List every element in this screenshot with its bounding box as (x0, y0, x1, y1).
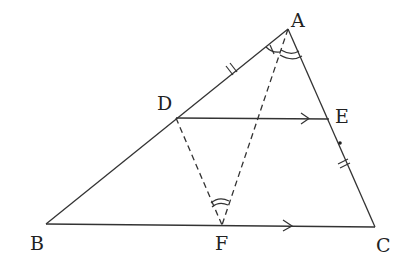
equal-tick-AD-1 (226, 66, 233, 75)
label-D: D (157, 92, 172, 114)
segment-BC (46, 224, 375, 227)
angle-arc-A-right-2 (280, 55, 302, 59)
geometry-diagram: A B C D E F (0, 0, 420, 279)
segment-AC (288, 29, 375, 227)
equal-tick-AD-2 (230, 63, 237, 72)
segment-AF (222, 29, 288, 225)
angle-arc-F-2 (212, 203, 228, 207)
dot-marker (338, 141, 342, 145)
label-B: B (30, 232, 44, 254)
angle-arc-F-1 (211, 199, 229, 203)
label-C: C (376, 234, 391, 256)
angle-tick-A (270, 45, 274, 54)
label-A: A (290, 9, 305, 31)
angle-arc-A-right-1 (281, 50, 299, 53)
label-E: E (335, 105, 349, 127)
parallel-arrow-icon-BC (283, 220, 292, 231)
segment-AB (46, 29, 288, 224)
segment-DE (176, 118, 329, 119)
segment-DF (176, 118, 222, 225)
label-F: F (215, 232, 228, 254)
